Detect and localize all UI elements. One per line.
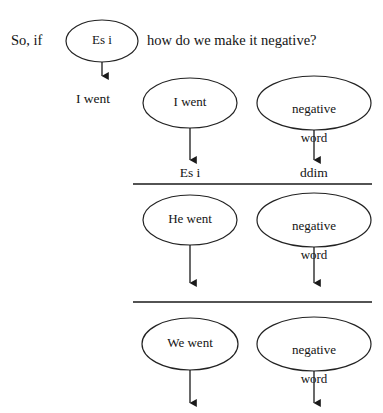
node-he-went[interactable] bbox=[143, 195, 237, 245]
node-we-went[interactable] bbox=[142, 318, 238, 370]
node-es-i[interactable] bbox=[66, 20, 138, 62]
column-header-es-i: Es i bbox=[150, 165, 230, 181]
column-header-ddim: ddim bbox=[274, 165, 354, 181]
node-negative-word-row2[interactable] bbox=[257, 76, 371, 130]
intro-lead-text: So, if bbox=[11, 32, 42, 49]
node-negative-word-row3[interactable] bbox=[257, 193, 371, 247]
intro-question-text: how do we make it negative? bbox=[147, 32, 317, 49]
node-negative-word-row4[interactable] bbox=[257, 317, 371, 371]
intro-subject-answer: I went bbox=[76, 91, 110, 107]
node-i-went-row2[interactable] bbox=[143, 78, 237, 128]
diagram-canvas: So, if how do we make it negative? I wen… bbox=[0, 0, 383, 413]
